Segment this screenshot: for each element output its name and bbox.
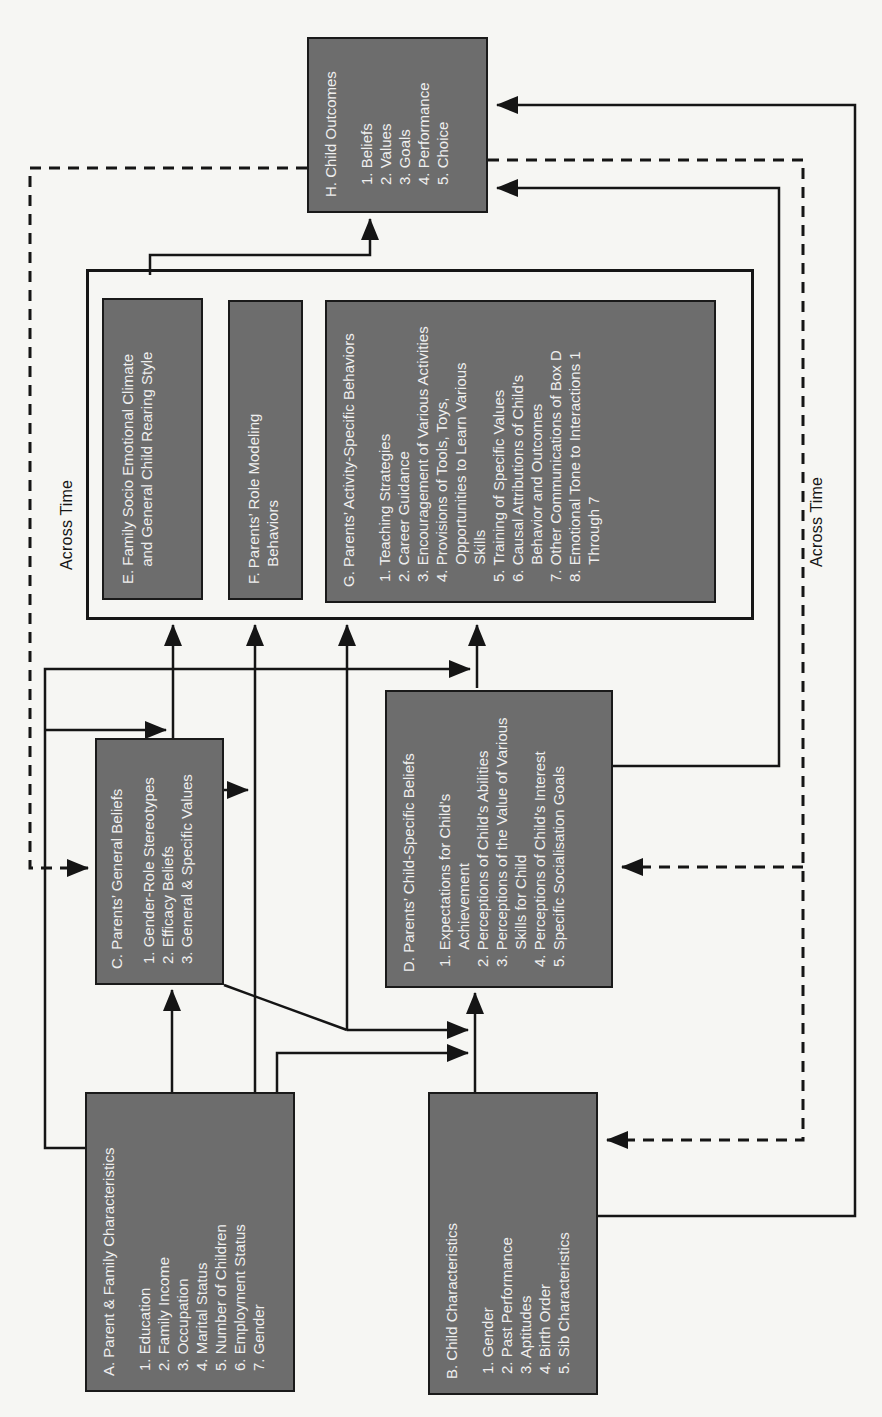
arrow-efg-to-h: [150, 219, 370, 275]
list-item: 2. Past Performance: [497, 1106, 516, 1374]
box-g-parents-activity-specific-behaviors: G. Parents’ Activity-Specific Behaviors …: [325, 300, 716, 603]
box-a-parent-family-characteristics: A. Parent & Family Characteristics 1. Ed…: [85, 1092, 295, 1392]
list-item: 1. Education: [135, 1106, 154, 1371]
box-a-items: 1. Education 2. Family Income 3. Occupat…: [135, 1106, 268, 1371]
list-item: 3. Aptitudes: [516, 1106, 535, 1374]
box-h-title: H. Child Outcomes: [321, 51, 340, 197]
list-item: 2. Efficacy Beliefs: [158, 752, 177, 964]
list-item: 3. Encouragement of Various Activities: [413, 315, 432, 582]
list-item: 4. Performance: [414, 51, 433, 185]
list-item: 4. Provisions of Tools, Toys, Opportunit…: [432, 330, 489, 582]
box-c-title: C. Parents’ General Beliefs: [107, 752, 126, 969]
list-item: 5. Choice: [433, 51, 452, 185]
list-item: 4. Birth Order: [535, 1106, 554, 1374]
across-time-label-top: Across Time: [58, 480, 76, 570]
list-item: 3. Goals: [395, 51, 414, 185]
line-c-diagonal: [224, 985, 347, 1030]
box-c-items: 1. Gender-Role Stereotypes 2. Efficacy B…: [139, 752, 196, 964]
box-g-title: G. Parents’ Activity-Specific Behaviors: [339, 325, 358, 587]
box-g-items: 1. Teaching Strategies 2. Career Guidanc…: [375, 314, 603, 582]
box-h-items: 1. Beliefs 2. Values 3. Goals 4. Perform…: [357, 51, 452, 185]
box-d-parents-child-specific-beliefs: D. Parents’ Child-Specific Beliefs 1. Ex…: [385, 690, 613, 988]
box-b-items: 1. Gender 2. Past Performance 3. Aptitud…: [478, 1106, 573, 1374]
list-item: 5. Training of Specific Values: [489, 314, 508, 582]
list-item: 4. Marital Status: [192, 1106, 211, 1371]
box-f-title: F. Parents’ Role Modeling Behaviors: [244, 362, 282, 584]
list-item: 2. Perceptions of Child’s Abilities: [473, 704, 492, 967]
box-e-title: E. Family Socio Emotional Climate and Ge…: [118, 345, 156, 584]
list-item: 7. Other Communications of Box D: [546, 314, 565, 582]
box-d-items: 1. Expectations for Child’s Achievement …: [435, 704, 568, 967]
box-c-parents-general-beliefs: C. Parents’ General Beliefs 1. Gender-Ro…: [95, 738, 224, 985]
list-item: 1. Teaching Strategies: [375, 314, 394, 582]
scanned-figure-page: A. Parent & Family Characteristics 1. Ed…: [0, 0, 882, 1417]
box-b-child-characteristics: B. Child Characteristics 1. Gender 2. Pa…: [428, 1092, 598, 1395]
list-item: 2. Values: [376, 51, 395, 185]
list-item: 5. Number of Children: [211, 1106, 230, 1371]
list-item: 1. Gender: [478, 1106, 497, 1374]
box-d-title: D. Parents’ Child-Specific Beliefs: [399, 704, 418, 972]
model-diagram: A. Parent & Family Characteristics 1. Ed…: [0, 0, 882, 1417]
list-item: 1. Gender-Role Stereotypes: [139, 752, 158, 964]
list-item: 3. Occupation: [173, 1106, 192, 1371]
arrow-a-merge-b-stem: [277, 1053, 468, 1092]
list-item: 6. Causal Attributions of Child’s Behavi…: [508, 315, 546, 582]
list-item: 1. Expectations for Child’s Achievement: [435, 704, 473, 967]
across-time-label-bottom: Across Time: [808, 477, 826, 567]
box-b-title: B. Child Characteristics: [442, 1106, 461, 1379]
box-a-title: A. Parent & Family Characteristics: [99, 1106, 118, 1376]
box-h-child-outcomes: H. Child Outcomes 1. Beliefs 2. Values 3…: [307, 37, 488, 213]
box-e-family-socio-emotional-climate: E. Family Socio Emotional Climate and Ge…: [102, 298, 203, 600]
list-item: 3. Perceptions of the Value of Various S…: [492, 704, 530, 967]
list-item: 8. Emotional Tone to Interactions 1 Thro…: [565, 320, 603, 582]
list-item: 4. Perceptions of Child’s Interest: [530, 704, 549, 967]
list-item: 5. Sib Characteristics: [554, 1106, 573, 1374]
list-item: 1. Beliefs: [357, 51, 376, 185]
list-item: 3. General & Specific Values: [177, 752, 196, 964]
list-item: 6. Employment Status: [230, 1106, 249, 1371]
list-item: 7. Gender: [249, 1106, 268, 1371]
list-item: 2. Career Guidance: [394, 314, 413, 582]
list-item: 5. Specific Socialisation Goals: [549, 704, 568, 967]
box-f-parents-role-modeling-behaviors: F. Parents’ Role Modeling Behaviors: [228, 300, 303, 600]
list-item: 2. Family Income: [154, 1106, 173, 1371]
